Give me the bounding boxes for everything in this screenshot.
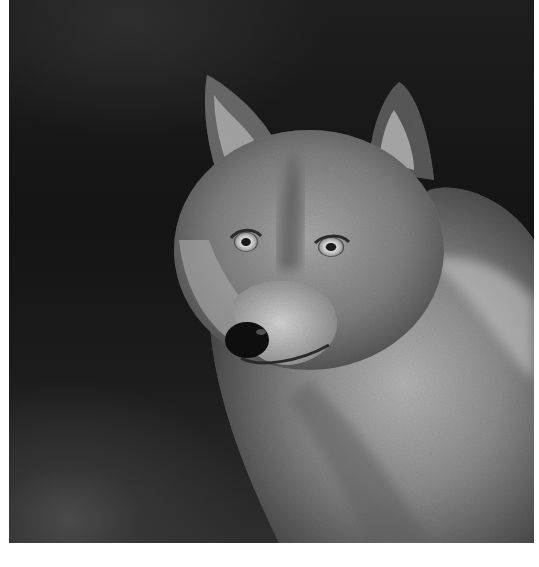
wolf-illustration: [9, 0, 534, 543]
wolf-head: [174, 130, 444, 370]
wolf-photo: [9, 0, 534, 543]
